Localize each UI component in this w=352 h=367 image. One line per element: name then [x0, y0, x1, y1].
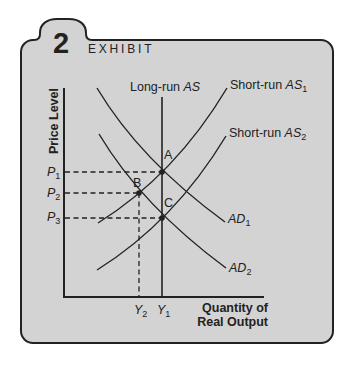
long-run-as-label: Long-run AS: [130, 80, 201, 94]
exhibit-diagram: 2 EXHIBIT A B C Long-run AS Short-run AS…: [0, 0, 352, 367]
exhibit-number: 2: [53, 27, 69, 59]
y-axis-title: Price Level: [47, 88, 61, 154]
short-run-as1-label: Short-run AS1: [230, 78, 307, 94]
short-run-as2-label: Short-run AS2: [229, 126, 306, 142]
point-a-label: A: [164, 148, 173, 162]
point-c-label: C: [164, 196, 173, 210]
point-b-marker: [136, 190, 142, 196]
x-axis-title-line2: Real Output: [197, 315, 269, 329]
point-a-marker: [159, 169, 165, 175]
point-c-marker: [159, 215, 165, 221]
x-axis-title-line1: Quantity of: [202, 301, 269, 315]
point-b-label: B: [133, 176, 141, 190]
exhibit-label: EXHIBIT: [88, 42, 154, 56]
exhibit-panel: [21, 19, 333, 343]
